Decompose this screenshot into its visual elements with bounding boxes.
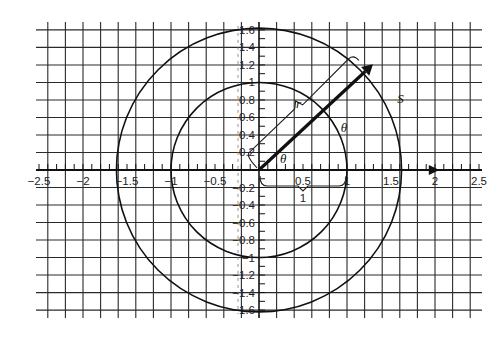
y-tick-label: −1.2 [232,269,255,281]
theta-arc-label: θ [341,120,348,135]
y-tick-label: 0.6 [239,111,255,123]
y-tick-label: 1.4 [239,41,256,53]
x-tick-label: −1.5 [116,175,139,187]
x-tick-label: −0.5 [204,175,227,187]
y-tick-label: 0.8 [239,94,255,106]
x-tick-label: 2 [432,175,438,187]
x-axis-arrow-icon [429,165,440,175]
x-tick-label: −2.5 [28,175,51,187]
y-tick-label: −0.2 [232,182,255,194]
y-tick-label: −0.8 [232,234,255,246]
y-tick-label: 1.2 [239,59,255,71]
unit-brace-label: 1 [300,192,306,204]
y-tick-label: 0.4 [239,129,256,141]
y-tick-label: 0.2 [239,146,255,158]
x-tick-label: 1.5 [383,175,399,187]
x-axis-tick-labels: −2.5−2−1.5−1−0.50.511.522.5 [28,175,487,187]
x-tick-label: 2.5 [471,175,487,187]
y-tick-label: −0.4 [232,199,255,211]
y-tick-label: −0.6 [232,217,255,229]
arc-length-s-label: S [397,91,404,106]
x-tick-label: −2 [76,175,89,187]
x-tick-label: 0.5 [295,175,311,187]
theta-angle-label: θ [280,151,287,166]
y-tick-label: −1.4 [232,287,255,299]
polar-diagram: −2.5−2−1.5−1−0.50.511.522.5 1.61.41.210.… [0,0,504,337]
